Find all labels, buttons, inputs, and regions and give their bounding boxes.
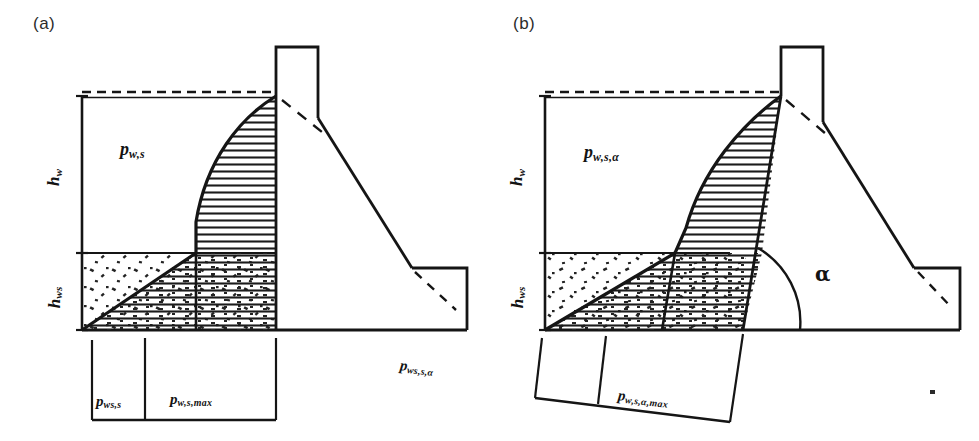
panel-b-drawing — [490, 0, 979, 441]
dim-label-right-a: pw,s,max — [170, 392, 212, 408]
wall-stem-outline-b — [781, 47, 823, 122]
wall-downstream-slope-b — [823, 122, 914, 268]
height-label-sediment-b: hws — [509, 286, 528, 308]
wall-joint-dash-lower-b — [918, 272, 952, 308]
wall-body-a — [276, 47, 467, 330]
height-label-sediment-a: hws — [46, 286, 65, 308]
wall-downstream-slope-a — [318, 118, 412, 268]
angle-arc-b — [758, 248, 800, 330]
panel-b: (b) — [490, 0, 979, 441]
pressure-wedge-hatch-fill-b — [670, 92, 788, 258]
wall-joint-dash-upper-b — [786, 100, 826, 134]
pressure-label-upper-a: pw,s — [120, 140, 145, 160]
dim-tick-left-b — [535, 338, 542, 398]
height-label-water-b: hw — [508, 169, 527, 186]
scan-artifact-dot — [930, 390, 935, 394]
pressure-label-upper-b: pw,s,α — [584, 143, 619, 163]
dim-tick-mid-b — [598, 336, 606, 404]
dim-tick-right-b — [730, 334, 743, 422]
height-label-water-a: hw — [45, 169, 64, 186]
wall-toe-outline-b — [914, 268, 960, 330]
angle-label-b: α — [815, 264, 830, 284]
figure-root: (a) — [0, 0, 979, 441]
pressure-wedge-hatch-fill — [190, 92, 282, 257]
dim-frame-b — [535, 334, 743, 422]
dim-label-left-a: pws,s — [96, 394, 121, 410]
